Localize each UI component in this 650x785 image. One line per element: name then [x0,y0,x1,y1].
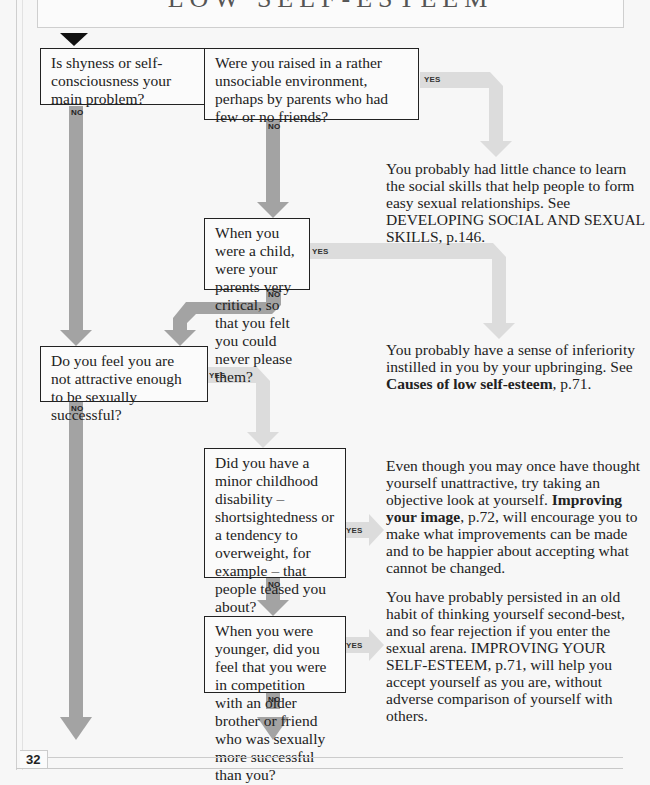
page-number: 32 [20,750,48,768]
question-box-shyness: Is shyness or self-consciousness your ma… [40,48,208,105]
answer-sense-of-inferiority: You probably have a sense of inferiority… [386,341,648,392]
answer-improving-image: Even though you may once have thought yo… [386,457,648,576]
answer-link-causes-low-self-esteem[interactable]: Causes of low self-esteem [386,375,553,392]
answer-text: You probably have a sense of inferiority… [386,341,635,375]
question-box-critical-parents: When you were a child, were your parents… [204,218,310,290]
no-arrow-q2-q3 [257,119,289,218]
footer-rule [48,757,623,758]
yes-arrow-q2-a1 [420,72,512,157]
yes-label-q2: YES [424,75,441,84]
yes-label-q5: YES [346,526,363,535]
answer-text: You have probably persisted in an old ha… [386,588,625,724]
no-arrow-q1-q4 [60,106,92,346]
yes-label-q6: YES [346,641,363,650]
question-text: Is shyness or self-consciousness your ma… [51,54,171,107]
no-label-q1: NO [71,108,83,117]
question-box-not-attractive: Do you feel you are not attractive enoug… [40,346,208,402]
yes-label-q3: YES [312,247,329,256]
yes-arrow-q3-a2 [310,243,515,339]
question-box-unsociable-environment: Were you raised in a rather unsociable e… [204,48,419,120]
question-text: Were you raised in a rather unsociable e… [215,54,388,125]
question-text: Did you have a minor childhood disabilit… [215,454,334,615]
question-box-childhood-disability: Did you have a minor childhood disabilit… [204,448,346,578]
answer-text-after: , p.71. [553,375,592,392]
start-arrow-icon [60,33,88,46]
answer-text: You probably had little chance to learn … [386,160,644,245]
answer-social-skills: You probably had little chance to learn … [386,160,648,245]
footer-rule-lower [16,768,623,769]
no-arrow-q4-down [60,402,92,740]
question-box-sibling-competition: When you were younger, did you feel that… [204,616,346,693]
answer-second-best: You have probably persisted in an old ha… [386,588,648,724]
